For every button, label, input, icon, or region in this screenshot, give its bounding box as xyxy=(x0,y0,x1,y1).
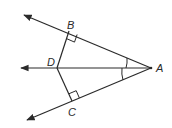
label-d: D xyxy=(47,56,55,68)
angle-bisector-diagram: B D A C xyxy=(0,0,172,128)
vertex-a-dot xyxy=(150,67,153,70)
angle-arc-cad xyxy=(122,68,123,80)
segment-db xyxy=(57,31,69,68)
label-c: C xyxy=(68,106,76,118)
ray-ac xyxy=(27,68,151,120)
ray-ab xyxy=(24,15,151,68)
angle-arc-bad xyxy=(126,58,127,68)
label-b: B xyxy=(67,19,74,31)
segment-dc xyxy=(57,68,72,101)
label-a: A xyxy=(155,62,163,74)
